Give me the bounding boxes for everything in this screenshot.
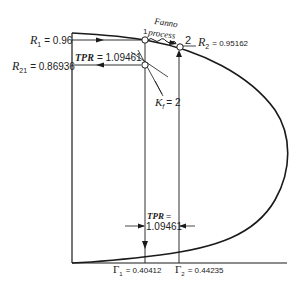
state-point-2 [177, 44, 183, 50]
gamma2-label: Γ2= 0.44235 [175, 263, 224, 277]
gamma1-down-arrow [142, 241, 148, 249]
tpr-bottom-left-arrow [138, 224, 145, 229]
r2-label: R2= 0.95162 [197, 35, 249, 50]
kf-leader [155, 81, 162, 94]
fanno-process-diagram: R1= 0.96 R21= 0.86936 TPR= 1.09461 Fanno… [0, 0, 300, 282]
state-point-1 [142, 37, 148, 43]
point-1-label: 1 [143, 27, 148, 36]
r21-label: R21= 0.86936 [11, 59, 75, 74]
state-point-21 [142, 62, 148, 68]
r1-label: R1= 0.96 [29, 33, 73, 48]
point-2-label: 2 [185, 34, 191, 46]
r1-arrow [96, 38, 104, 43]
gamma1-label: Γ1= 0.40412 [113, 263, 162, 277]
gamma2-up-arrow [176, 50, 182, 57]
tpr-top-label: TPR= 1.09461 [75, 52, 142, 63]
kf-label: Kf= 2 [154, 96, 181, 110]
r21-arrow [96, 63, 104, 68]
tpr-bottom-label: TPR= [147, 211, 171, 221]
tpr-bottom-value: 1.09461 [146, 221, 183, 232]
